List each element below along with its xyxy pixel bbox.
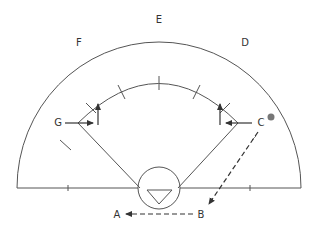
inner-arc-tick-4 [193, 85, 200, 99]
right-wing-line [178, 123, 238, 188]
player-dot [268, 114, 275, 121]
center-circle [138, 167, 180, 209]
outer-arc [17, 42, 301, 188]
label-a: A [114, 210, 121, 220]
label-e: E [156, 15, 162, 25]
label-b: B [198, 210, 205, 220]
inverted-triangle-icon [147, 190, 172, 204]
left-marker-line [60, 140, 71, 150]
left-wing-line [78, 123, 140, 188]
label-g: G [54, 118, 62, 128]
inner-arc [78, 84, 238, 124]
dashed-path-c-to-b [209, 132, 258, 204]
label-d: D [241, 38, 249, 48]
label-f: F [76, 38, 82, 48]
inner-arc-tick-2 [118, 85, 125, 99]
diagram-canvas [0, 0, 316, 229]
label-c: C [258, 118, 265, 128]
